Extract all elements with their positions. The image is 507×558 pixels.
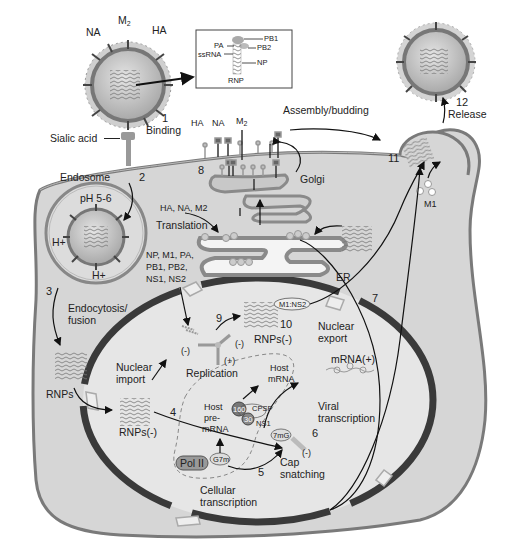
label-g7m: G7m bbox=[213, 455, 229, 464]
rnp-cluster-cytoplasm bbox=[55, 352, 87, 380]
rnp-cluster-er bbox=[342, 226, 372, 252]
step-2-number: 2 bbox=[139, 171, 145, 183]
label-m7g: 7mG bbox=[273, 431, 289, 440]
label-cap-1: Cap bbox=[280, 456, 299, 468]
label-m1-ns2: M1:NS2 bbox=[279, 300, 306, 309]
step-1-label: Binding bbox=[146, 124, 181, 136]
label-proteins-line2: PB1, PB2, bbox=[146, 262, 188, 273]
step-4-number: 4 bbox=[170, 406, 176, 418]
label-pa: PA bbox=[214, 41, 223, 50]
membrane-label-m2: M2 bbox=[236, 116, 247, 130]
step-3-label-line2: fusion bbox=[68, 314, 96, 326]
membrane-label-na: NA bbox=[212, 118, 225, 129]
label-m2-text: M bbox=[118, 14, 127, 26]
label-replication-plus: (+) bbox=[224, 356, 235, 367]
label-h-plus-bottom: H+ bbox=[92, 269, 106, 281]
label-pol-ii: Pol II bbox=[180, 457, 204, 469]
label-cap-minus: (-) bbox=[302, 448, 311, 459]
label-sialic-acid: Sialic acid bbox=[50, 132, 97, 144]
membrane-label-m2-text: M bbox=[236, 116, 244, 126]
step-12-number: 12 bbox=[456, 96, 468, 108]
label-cap-2: snatching bbox=[280, 468, 325, 480]
label-proteins-line1: NP, M1, PA, bbox=[146, 250, 194, 261]
label-host-mrna-2: mRNA bbox=[268, 374, 295, 385]
label-ns1: NS1 bbox=[256, 419, 271, 428]
label-pb1: PB1 bbox=[264, 34, 278, 43]
step-1-number: 1 bbox=[162, 112, 168, 124]
label-replication: Replication bbox=[186, 367, 238, 379]
diagram-canvas bbox=[0, 0, 507, 558]
label-cellular-1: Cellular bbox=[200, 484, 236, 496]
label-endosome: Endosome bbox=[60, 171, 110, 183]
label-nuclear-import-2: import bbox=[116, 373, 145, 385]
step-9-number: 9 bbox=[216, 312, 222, 324]
label-proteins-line3: NS1, NS2 bbox=[146, 274, 186, 285]
label-cpsf: CPSF bbox=[252, 404, 272, 413]
label-viral-transcription-1: Viral bbox=[318, 400, 339, 412]
label-translation: Translation bbox=[156, 219, 208, 231]
sialic-acid-receptor bbox=[121, 132, 135, 140]
label-na: NA bbox=[86, 26, 101, 38]
label-np: NP bbox=[257, 58, 267, 67]
label-cellular-2: transcription bbox=[200, 496, 257, 508]
rnp-cluster-export bbox=[244, 302, 278, 328]
step-3-label-line1: Endocytosis/ bbox=[68, 302, 128, 314]
virion-incoming bbox=[83, 40, 173, 130]
step-10-number: 10 bbox=[280, 318, 292, 330]
label-pb2: PB2 bbox=[257, 43, 271, 52]
label-viral-transcription-2: transcription bbox=[318, 412, 375, 424]
label-rnps: RNPs bbox=[46, 388, 73, 400]
label-ssrna: ssRNA bbox=[198, 50, 221, 59]
label-h-plus-left: H+ bbox=[52, 236, 66, 248]
label-m1: M1 bbox=[424, 199, 437, 210]
label-translation-proteins: HA, NA, M2 bbox=[160, 203, 208, 214]
step-11-number: 11 bbox=[388, 152, 399, 164]
label-mrna-plus: mRNA(+) bbox=[331, 353, 375, 365]
step-6-number: 6 bbox=[312, 427, 318, 439]
label-assembly-budding: Assembly/budding bbox=[283, 104, 369, 116]
label-host-mrna-1: Host bbox=[270, 363, 289, 374]
label-golgi: Golgi bbox=[300, 173, 325, 185]
label-nuclear-export-1: Nuclear bbox=[318, 320, 354, 332]
label-ph: pH 5-6 bbox=[80, 192, 112, 204]
membrane-label-m2-sub: 2 bbox=[244, 120, 248, 127]
label-ha: HA bbox=[152, 24, 167, 36]
label-nuclear-import-1: Nuclear bbox=[116, 361, 152, 373]
label-m2: M2 bbox=[118, 14, 131, 30]
membrane-label-ha: HA bbox=[191, 118, 204, 129]
step-7-number: 7 bbox=[372, 292, 378, 304]
label-replication-minus-right: (-) bbox=[235, 339, 244, 350]
label-ns1-30: 30 bbox=[244, 415, 252, 424]
step-5-number: 5 bbox=[258, 466, 264, 478]
step-12-label: Release bbox=[448, 108, 487, 120]
label-host-pre-1: Host bbox=[204, 402, 223, 413]
label-replication-minus-left: (-) bbox=[181, 346, 190, 357]
label-rnp: RNP bbox=[228, 76, 244, 85]
step-3-number: 3 bbox=[46, 285, 52, 297]
label-rnps-minus-export: RNPs(-) bbox=[254, 333, 292, 345]
label-cpsf-160: 160 bbox=[233, 405, 246, 414]
label-host-pre-2: pre- bbox=[204, 413, 220, 424]
step-8-number: 8 bbox=[198, 164, 204, 176]
label-er: ER bbox=[336, 271, 351, 283]
label-nuclear-export-2: export bbox=[318, 332, 347, 344]
label-rnps-minus-import: RNPs(-) bbox=[119, 426, 157, 438]
virion-released bbox=[396, 22, 476, 102]
label-host-pre-3: mRNA bbox=[202, 424, 229, 435]
sialic-leader-line bbox=[104, 138, 120, 139]
rnp-cluster-nucleus bbox=[120, 398, 150, 426]
label-m2-sub: 2 bbox=[127, 20, 131, 27]
